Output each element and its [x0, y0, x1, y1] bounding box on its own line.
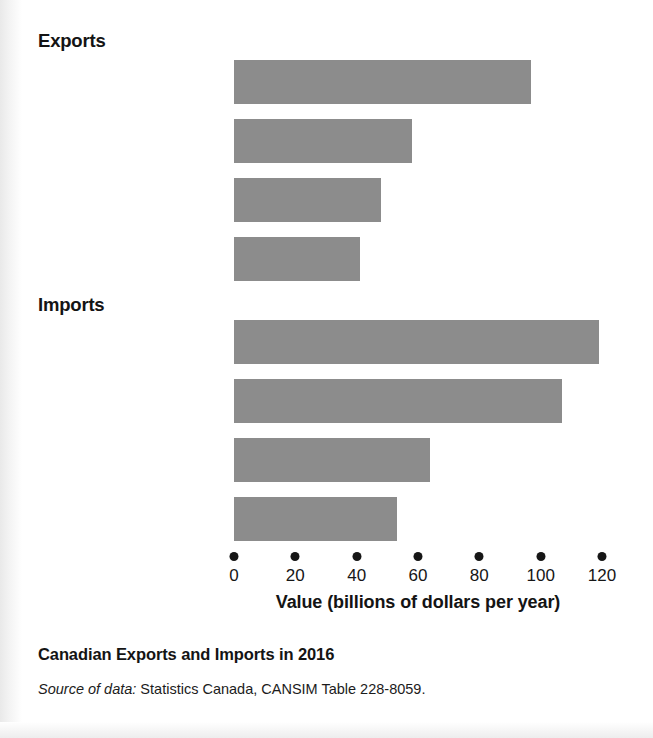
axis-tick-dot	[352, 552, 361, 561]
axis-tick-dot	[598, 552, 607, 561]
axis-tick-dot	[291, 552, 300, 561]
bar-chart-plot-area: Motor vehiclesand partsMetals and oresCr…	[0, 0, 653, 738]
axis-tick-dot	[536, 552, 545, 561]
axis-tick-label: 0	[229, 566, 238, 586]
bar	[234, 497, 397, 541]
figure-source-line: Source of data: Statistics Canada, CANSI…	[38, 681, 425, 697]
axis-tick-label: 60	[409, 566, 428, 586]
source-text: Statistics Canada, CANSIM Table 228-8059…	[136, 681, 425, 697]
axis-tick-label: 80	[470, 566, 489, 586]
axis-tick-dot	[475, 552, 484, 561]
bar	[234, 320, 599, 364]
bar	[234, 379, 562, 423]
source-label: Source of data:	[38, 681, 136, 697]
bar	[234, 237, 360, 281]
axis-tick-label: 100	[526, 566, 554, 586]
figure-canadian-exports-imports: Exports Imports Motor vehiclesand partsM…	[0, 0, 653, 738]
axis-tick-dot	[230, 552, 239, 561]
axis-tick-label: 120	[588, 566, 616, 586]
figure-caption-title: Canadian Exports and Imports in 2016	[38, 645, 334, 664]
axis-tick-label: 40	[347, 566, 366, 586]
bar	[234, 119, 412, 163]
bar	[234, 60, 531, 104]
bar	[234, 438, 430, 482]
bar	[234, 178, 381, 222]
axis-tick-dot	[414, 552, 423, 561]
axis-title-value: Value (billions of dollars per year)	[234, 592, 602, 613]
axis-tick-label: 20	[286, 566, 305, 586]
